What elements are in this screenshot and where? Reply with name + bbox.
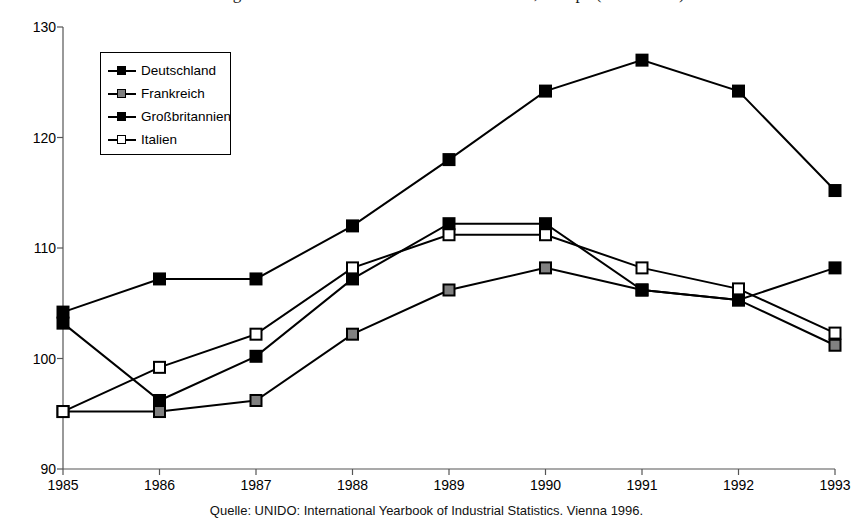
legend-marker-icon: [108, 65, 136, 77]
data-point-marker: [540, 262, 551, 273]
legend-item: Frankreich: [101, 82, 230, 105]
y-tick-label: 120: [16, 131, 56, 145]
x-tick-label: 1987: [240, 477, 271, 493]
x-tick-label: 1989: [433, 477, 464, 493]
data-point-marker: [733, 294, 744, 305]
data-point-marker: [154, 406, 165, 417]
data-point-marker: [251, 329, 262, 340]
legend-square-icon: [117, 89, 126, 98]
series-line: [63, 224, 835, 401]
x-tick-label: 1992: [723, 477, 754, 493]
x-tick-label: 1991: [626, 477, 657, 493]
data-point-marker: [830, 340, 841, 351]
data-point-marker: [58, 318, 69, 329]
data-point-marker: [444, 154, 455, 165]
legend-label: Deutschland: [141, 64, 216, 78]
x-tick-label: 1993: [819, 477, 850, 493]
data-point-marker: [444, 229, 455, 240]
data-point-marker: [733, 283, 744, 294]
legend-marker-icon: [108, 88, 136, 100]
y-tick-label: 130: [16, 20, 56, 34]
data-point-marker: [154, 362, 165, 373]
data-point-marker: [347, 262, 358, 273]
legend-square-icon: [117, 112, 126, 121]
data-point-marker: [251, 395, 262, 406]
data-point-marker: [154, 395, 165, 406]
legend-label: Frankreich: [141, 87, 205, 101]
source-note: Quelle: UNIDO: International Yearbook of…: [0, 503, 853, 518]
y-tick-label: 100: [16, 352, 56, 366]
x-tick-label: 1986: [144, 477, 175, 493]
chart-figure: Abbildung: Lohnstückkosten in der Gesamt…: [0, 0, 853, 524]
x-axis-tick-labels: 198519861987198819891990199119921993: [63, 477, 835, 497]
legend-label: Großbritannien: [141, 110, 231, 124]
data-point-marker: [251, 351, 262, 362]
data-point-marker: [830, 262, 841, 273]
chart-legend: DeutschlandFrankreichGroßbritannienItali…: [100, 52, 231, 155]
data-point-marker: [58, 406, 69, 417]
chart-title: Abbildung: Lohnstückkosten in der Gesamt…: [0, 0, 853, 4]
legend-item: Großbritannien: [101, 105, 230, 128]
data-point-marker: [637, 262, 648, 273]
data-point-marker: [540, 86, 551, 97]
legend-square-icon: [117, 135, 126, 144]
legend-item: Deutschland: [101, 59, 230, 82]
x-tick-label: 1990: [530, 477, 561, 493]
data-point-marker: [637, 55, 648, 66]
y-axis-tick-labels: 90100110120130: [8, 27, 56, 469]
series-gro-britannien: [58, 218, 841, 406]
data-point-marker: [637, 284, 648, 295]
data-point-marker: [540, 229, 551, 240]
data-point-marker: [58, 307, 69, 318]
data-point-marker: [347, 273, 358, 284]
data-point-marker: [540, 218, 551, 229]
y-tick-label: 90: [16, 462, 56, 476]
legend-label: Italien: [141, 133, 177, 147]
series-italien: [58, 229, 841, 417]
data-point-marker: [830, 328, 841, 339]
series-line: [63, 235, 835, 412]
legend-marker-icon: [108, 134, 136, 146]
data-point-marker: [154, 273, 165, 284]
x-tick-label: 1988: [337, 477, 368, 493]
data-point-marker: [444, 218, 455, 229]
legend-item: Italien: [101, 128, 230, 151]
x-tick-label: 1985: [47, 477, 78, 493]
y-tick-label: 110: [16, 241, 56, 255]
legend-square-icon: [117, 66, 126, 75]
legend-marker-icon: [108, 111, 136, 123]
data-point-marker: [733, 86, 744, 97]
data-point-marker: [251, 273, 262, 284]
data-point-marker: [347, 220, 358, 231]
data-point-marker: [830, 185, 841, 196]
data-point-marker: [347, 329, 358, 340]
data-point-marker: [444, 284, 455, 295]
